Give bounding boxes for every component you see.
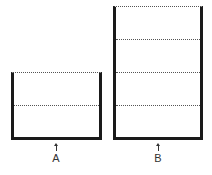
container-a-label: A [49,153,63,164]
arrow-up-icon [158,146,159,151]
container-b-divider-3 [116,105,200,106]
container-a [11,72,102,140]
container-b-divider-1 [116,39,200,40]
container-a-divider-1 [14,105,99,106]
arrow-up-icon [56,146,57,151]
container-b-divider-2 [116,72,200,73]
container-b-label: B [151,153,165,164]
container-b [113,6,203,140]
